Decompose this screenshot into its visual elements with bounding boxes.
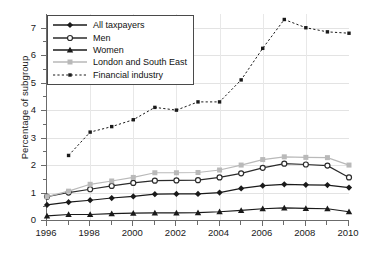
y-axis-tick — [41, 28, 46, 29]
y-axis-minor-tick — [43, 41, 46, 42]
x-axis-tick-label: 2010 — [328, 227, 365, 238]
data-point — [325, 155, 330, 160]
x-axis-tick — [46, 221, 47, 226]
data-point — [66, 189, 71, 194]
data-point — [325, 163, 330, 168]
data-point — [109, 183, 114, 188]
legend-label: London and South East — [93, 56, 187, 68]
data-point — [45, 194, 50, 199]
y-axis-tick-label: 1 — [10, 187, 36, 198]
data-point — [110, 125, 113, 128]
data-point — [65, 199, 71, 205]
y-axis-minor-tick — [43, 206, 46, 207]
x-axis-minor-tick — [326, 221, 327, 225]
y-axis-tick-label: 4 — [10, 104, 36, 115]
legend-swatch — [52, 32, 88, 44]
legend-swatch — [52, 56, 88, 68]
data-point — [174, 170, 179, 175]
data-point — [218, 100, 221, 103]
x-axis-tick-label: 2000 — [112, 227, 152, 238]
x-axis-tick-label: 2004 — [199, 227, 239, 238]
data-point — [88, 182, 93, 187]
data-point — [130, 193, 136, 199]
y-axis-tick-label: 6 — [10, 49, 36, 60]
legend-label: Financial industry — [93, 69, 163, 81]
data-point — [260, 165, 265, 170]
x-axis-tick — [175, 221, 176, 226]
y-axis-tick — [41, 193, 46, 194]
data-point — [67, 154, 70, 157]
data-point — [238, 185, 244, 191]
data-point — [152, 170, 157, 175]
data-point — [260, 183, 266, 189]
x-axis-tick-label: 2006 — [242, 227, 282, 238]
data-point — [131, 175, 136, 180]
legend-label: All taxpayers — [93, 19, 145, 31]
data-point — [260, 157, 265, 162]
x-axis-minor-tick — [240, 221, 241, 225]
data-point — [239, 78, 242, 81]
data-point — [173, 191, 179, 197]
data-point — [281, 181, 287, 187]
x-axis-tick — [132, 221, 133, 226]
y-axis-tick — [41, 138, 46, 139]
x-axis-tick — [348, 221, 349, 226]
series-women — [44, 205, 352, 219]
legend-item: Financial industry — [52, 69, 187, 81]
x-axis-tick-label: 1996 — [26, 227, 66, 238]
data-point — [326, 30, 329, 33]
data-point — [152, 191, 158, 197]
data-point — [132, 118, 135, 121]
data-point — [239, 163, 244, 168]
data-point — [283, 18, 286, 21]
legend-item: All taxpayers — [52, 19, 187, 31]
y-axis-tick — [41, 83, 46, 84]
x-axis-minor-tick — [68, 221, 69, 225]
legend-swatch — [52, 69, 88, 81]
data-point — [239, 171, 244, 176]
data-point — [303, 162, 308, 167]
data-point — [196, 178, 201, 183]
data-point — [195, 191, 201, 197]
y-axis-minor-tick — [43, 96, 46, 97]
legend-item: Women — [52, 44, 187, 56]
x-axis-minor-tick — [111, 221, 112, 225]
x-axis-tick — [89, 221, 90, 226]
data-point — [261, 47, 264, 50]
legend-label: Women — [93, 44, 124, 56]
data-point — [216, 189, 222, 195]
y-axis-tick-label: 0 — [10, 214, 36, 225]
y-axis-tick-label: 2 — [10, 159, 36, 170]
data-point — [303, 155, 308, 160]
chart-legend: All taxpayersMenWomenLondon and South Ea… — [47, 15, 194, 85]
data-point — [109, 178, 114, 183]
x-axis-tick — [219, 221, 220, 226]
data-point — [324, 182, 330, 188]
data-point — [217, 175, 222, 180]
x-axis-tick-label: 2008 — [285, 227, 325, 238]
data-point — [347, 175, 352, 180]
data-point — [282, 161, 287, 166]
data-point — [174, 178, 179, 183]
y-axis-minor-tick — [43, 124, 46, 125]
y-axis-minor-tick — [43, 179, 46, 180]
data-point — [131, 180, 136, 185]
line-chart: Percentage of subgroup 01234567 19961998… — [0, 0, 365, 255]
y-axis-tick — [41, 55, 46, 56]
x-axis-minor-tick — [283, 221, 284, 225]
legend-swatch — [52, 19, 88, 31]
x-axis-tick — [262, 221, 263, 226]
data-point — [88, 187, 93, 192]
x-axis-tick-label: 2002 — [155, 227, 195, 238]
data-point — [88, 130, 91, 133]
x-axis-minor-tick — [154, 221, 155, 225]
data-point — [152, 178, 157, 183]
data-point — [153, 106, 156, 109]
legend-swatch — [52, 44, 88, 56]
data-point — [347, 32, 350, 35]
y-axis-tick-label: 7 — [10, 22, 36, 33]
data-point — [346, 184, 352, 190]
legend-label: Men — [93, 32, 111, 44]
x-axis-minor-tick — [197, 221, 198, 225]
data-point — [196, 100, 199, 103]
